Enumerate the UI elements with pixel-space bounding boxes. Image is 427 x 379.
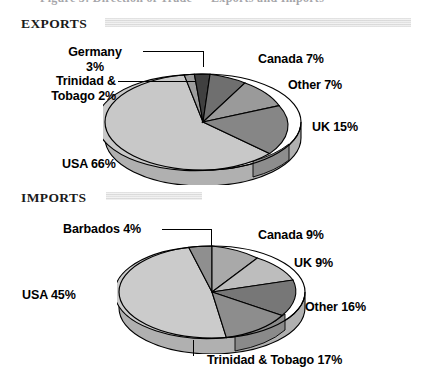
imports-callout-uk: UK 9% [294, 256, 333, 270]
exports-leader-trinidad [118, 81, 196, 82]
imports-callout-barbados: Barbados 4% [63, 222, 141, 236]
exports-pie-chart [103, 60, 303, 185]
exports-leader-germany-vertical [203, 51, 204, 67]
cut-off-title-strip: Figure 3: Direction of Trade — Exports a… [40, 0, 370, 5]
exports-callout-trinidad-line1: Trinidad & [8, 74, 116, 89]
exports-redacted-bar [105, 18, 411, 27]
exports-callout-germany-line1: Germany [50, 45, 140, 60]
exports-section-heading: EXPORTS [21, 16, 87, 32]
imports-callout-canada: Canada 9% [258, 228, 324, 242]
exports-pie-top [103, 74, 301, 171]
imports-section-heading: IMPORTS [21, 190, 86, 206]
imports-leader-barbados-horizontal [162, 229, 212, 230]
imports-leader-trinidad-vertical [193, 340, 194, 356]
exports-callout-uk: UK 15% [312, 120, 358, 134]
trade-charts-figure: Figure 3: Direction of Trade — Exports a… [0, 0, 427, 379]
exports-leader-germany-horizontal [143, 51, 204, 52]
exports-callout-germany-line2: 3% [50, 60, 140, 75]
imports-redacted-bar [106, 192, 202, 200]
imports-pie-top [117, 246, 305, 339]
cut-off-title-text: Figure 3: Direction of Trade — Exports a… [40, 0, 370, 4]
exports-callout-usa: USA 66% [62, 157, 116, 171]
imports-callout-other: Other 16% [305, 300, 366, 314]
imports-callout-usa: USA 45% [22, 288, 76, 302]
imports-leader-barbados-vertical [211, 229, 212, 247]
imports-pie-svg [117, 232, 307, 354]
exports-callout-trinidad: Trinidad & Tobago 2% [8, 74, 116, 103]
exports-pie-svg [103, 60, 303, 185]
exports-callout-germany: Germany 3% [50, 45, 140, 74]
exports-callout-trinidad-line2: Tobago 2% [8, 89, 116, 104]
exports-callout-other: Other 7% [288, 78, 342, 92]
imports-pie-chart [117, 232, 307, 354]
exports-callout-canada: Canada 7% [258, 52, 324, 66]
imports-callout-trinidad: Trinidad & Tobago 17% [207, 353, 342, 367]
